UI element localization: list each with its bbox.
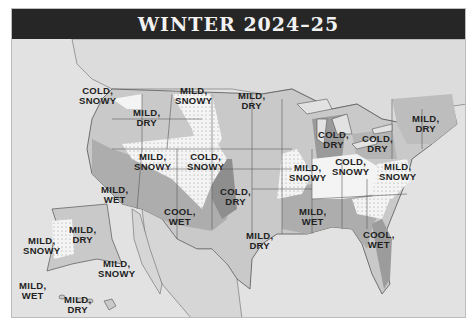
label-ohio-valley-north: COLD,DRY xyxy=(362,134,393,154)
label-high-plains-south: COLD,DRY xyxy=(220,187,251,207)
label-texas-oklahoma: MILD,DRY xyxy=(246,231,273,251)
label-central-rockies: COLD,SNOWY xyxy=(187,152,224,172)
map-title: WINTER 2024–25 xyxy=(138,13,339,35)
label-northern-plains: MILD,DRY xyxy=(238,91,265,111)
label-northern-rockies: MILD,SNOWY xyxy=(175,86,212,106)
forecast-map-frame: WINTER 2024–25 xyxy=(11,8,466,318)
title-bar: WINTER 2024–25 xyxy=(12,9,465,39)
label-upper-midwest: COLD,DRY xyxy=(318,130,349,150)
label-pacific-southwest: MILD,WET xyxy=(101,185,128,205)
label-ohio-valley: COLD,SNOWY xyxy=(332,157,369,177)
label-alaska-north: MILD,DRY xyxy=(69,225,96,245)
label-appalachians: MILD,SNOWY xyxy=(379,162,416,182)
label-hawaii-east: MILD,DRY xyxy=(64,295,91,315)
label-heartland: MILD,SNOWY xyxy=(289,163,326,183)
label-hawaii-west: MILD,WET xyxy=(19,281,46,301)
label-northeast: MILD,DRY xyxy=(412,114,439,134)
label-deep-south: MILD,WET xyxy=(299,207,326,227)
label-southeast: COOL,WET xyxy=(363,230,395,250)
label-alaska-south: MILD,SNOWY xyxy=(98,259,135,279)
label-pacific-northwest: COLD,SNOWY xyxy=(79,86,116,106)
label-intermountain: MILD,DRY xyxy=(133,108,160,128)
label-desert-southwest: COOL,WET xyxy=(164,207,196,227)
label-alaska-west: MILD,SNOWY xyxy=(23,236,60,256)
label-great-basin: MILD,SNOWY xyxy=(134,152,171,172)
